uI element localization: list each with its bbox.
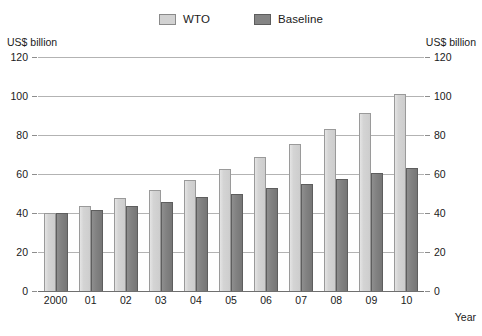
- bar-group: [108, 57, 143, 291]
- bar-baseline-03: [161, 202, 173, 291]
- x-tick-label-07: 07: [284, 294, 319, 306]
- bar-group: [354, 57, 389, 291]
- bar-wto-02: [114, 198, 126, 291]
- y-tick-left-80: [32, 135, 37, 136]
- y-tick-right-60: [425, 174, 430, 175]
- legend-label-wto: WTO: [183, 13, 210, 25]
- bar-chart: WTO Baseline US$ billion US$ billion 002…: [0, 0, 482, 336]
- y-tick-label-left-60: 60: [16, 169, 28, 180]
- bar-wto-04: [184, 180, 196, 291]
- y-tick-label-left-100: 100: [10, 91, 28, 102]
- y-axis-left-unit-caption: US$ billion: [7, 36, 57, 48]
- bar-baseline-08: [336, 179, 348, 291]
- y-tick-label-right-80: 80: [434, 130, 446, 141]
- bar-groups: [38, 57, 424, 291]
- y-tick-label-left-0: 0: [22, 286, 28, 297]
- y-tick-label-right-60: 60: [434, 169, 446, 180]
- bar-wto-07: [289, 144, 301, 291]
- bar-baseline-09: [371, 173, 383, 291]
- y-tick-right-0: [425, 291, 430, 292]
- bar-wto-10: [394, 94, 406, 291]
- x-tick-label-02: 02: [108, 294, 143, 306]
- y-tick-label-right-120: 120: [434, 52, 452, 63]
- y-tick-label-right-40: 40: [434, 208, 446, 219]
- y-tick-label-right-20: 20: [434, 247, 446, 258]
- bar-wto-08: [324, 129, 336, 291]
- y-tick-label-left-80: 80: [16, 130, 28, 141]
- bar-baseline-02: [126, 206, 138, 291]
- bar-group: [143, 57, 178, 291]
- bar-baseline-2000: [56, 213, 68, 291]
- bar-group: [178, 57, 213, 291]
- bar-baseline-06: [266, 188, 278, 291]
- bar-group: [319, 57, 354, 291]
- y-axis-right-unit-caption: US$ billion: [426, 36, 476, 48]
- y-tick-label-left-40: 40: [16, 208, 28, 219]
- y-tick-right-100: [425, 96, 430, 97]
- x-tick-label-03: 03: [143, 294, 178, 306]
- y-tick-right-40: [425, 213, 430, 214]
- bar-baseline-07: [301, 184, 313, 291]
- y-tick-left-40: [32, 213, 37, 214]
- y-tick-label-right-100: 100: [434, 91, 452, 102]
- bar-baseline-04: [196, 197, 208, 291]
- y-tick-left-0: [32, 291, 37, 292]
- y-tick-label-left-120: 120: [10, 52, 28, 63]
- legend-label-baseline: Baseline: [278, 13, 323, 25]
- bar-group: [389, 57, 424, 291]
- bar-wto-05: [219, 169, 231, 291]
- y-tick-left-60: [32, 174, 37, 175]
- y-tick-label-left-20: 20: [16, 247, 28, 258]
- y-tick-right-120: [425, 57, 430, 58]
- x-tick-label-10: 10: [389, 294, 424, 306]
- plot-area: 002020404060608080100100120120: [38, 57, 424, 291]
- x-tick-label-04: 04: [178, 294, 213, 306]
- legend-item-wto: WTO: [159, 13, 210, 25]
- bar-wto-03: [149, 190, 161, 291]
- x-tick-label-09: 09: [354, 294, 389, 306]
- x-tick-label-05: 05: [213, 294, 248, 306]
- bar-wto-06: [254, 157, 266, 291]
- y-tick-left-100: [32, 96, 37, 97]
- y-tick-right-80: [425, 135, 430, 136]
- x-axis-title: Year: [455, 311, 476, 323]
- y-tick-right-20: [425, 252, 430, 253]
- legend-item-baseline: Baseline: [254, 13, 323, 25]
- bar-baseline-10: [406, 168, 418, 291]
- x-tick-label-08: 08: [319, 294, 354, 306]
- bar-wto-09: [359, 113, 371, 291]
- bar-group: [73, 57, 108, 291]
- x-tick-label-06: 06: [249, 294, 284, 306]
- chart-legend: WTO Baseline: [0, 13, 482, 25]
- x-tick-label-01: 01: [73, 294, 108, 306]
- y-tick-left-120: [32, 57, 37, 58]
- bar-baseline-01: [91, 210, 103, 291]
- legend-swatch-baseline-icon: [254, 14, 271, 25]
- bar-baseline-05: [231, 194, 243, 291]
- y-tick-left-20: [32, 252, 37, 253]
- x-axis-tick-labels: 200001020304050607080910: [38, 294, 424, 306]
- bar-wto-2000: [44, 213, 56, 291]
- legend-swatch-wto-icon: [159, 14, 176, 25]
- bar-group: [38, 57, 73, 291]
- gridline-0: [38, 291, 424, 292]
- bar-wto-01: [79, 206, 91, 291]
- bar-group: [284, 57, 319, 291]
- bar-group: [249, 57, 284, 291]
- x-tick-label-2000: 2000: [38, 294, 73, 306]
- y-tick-label-right-0: 0: [434, 286, 440, 297]
- bar-group: [213, 57, 248, 291]
